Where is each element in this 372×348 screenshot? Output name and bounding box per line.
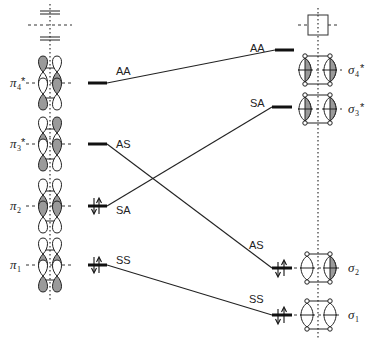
left-axis: [28, 4, 72, 300]
sym-label-right-SS: SS: [249, 293, 264, 305]
label-pi2: π: [10, 198, 17, 213]
sym-label-left-SA: SA: [116, 204, 131, 216]
sym-label-left-SS: SS: [116, 254, 131, 266]
orbital-sigma3-star: σ 3 *: [298, 93, 365, 125]
svg-text:3: 3: [355, 109, 359, 118]
sym-label-left-AS: AS: [116, 138, 131, 150]
correlation-AA: [107, 50, 275, 83]
sym-label-right-SA: SA: [250, 97, 265, 109]
label-sigma1: σ: [348, 307, 355, 322]
svg-text:1: 1: [17, 265, 21, 274]
orbital-pi4-star: π 4 *: [10, 56, 72, 110]
orbital-sigma4-star: σ 4 *: [298, 54, 365, 86]
svg-text:2: 2: [17, 206, 21, 215]
sym-label-right-AS: AS: [249, 239, 264, 251]
label-sigma3: σ: [348, 101, 355, 116]
orbital-sigma1: σ 1: [294, 299, 359, 331]
correlation-diagram: π 4 * π 3 * π 2 π 1: [0, 0, 372, 348]
orbital-pi2: π 2: [10, 179, 72, 233]
label-sigma4: σ: [348, 62, 355, 77]
orbital-pi3-star: π 3 *: [10, 117, 72, 171]
sym-label-left-AA: AA: [116, 65, 131, 77]
correlation-AS: [107, 144, 272, 268]
sym-label-right-AA: AA: [250, 42, 265, 54]
svg-text:*: *: [360, 101, 365, 113]
svg-text:4: 4: [355, 70, 359, 79]
svg-text:*: *: [360, 62, 365, 74]
svg-text:*: *: [21, 136, 26, 148]
label-sigma2: σ: [348, 260, 355, 275]
orbital-pi1: π 1: [10, 238, 72, 292]
svg-text:2: 2: [355, 268, 359, 277]
svg-text:*: *: [21, 75, 26, 87]
label-pi1: π: [10, 257, 17, 272]
correlation-SS: [107, 265, 272, 315]
correlation-SA: [107, 107, 272, 206]
label-pi4: π: [10, 75, 17, 90]
label-pi3: π: [10, 136, 17, 151]
svg-text:1: 1: [355, 315, 359, 324]
orbital-sigma2: σ 2: [294, 252, 359, 284]
